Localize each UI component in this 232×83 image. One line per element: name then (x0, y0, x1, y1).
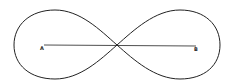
lemniscate-curve (14, 10, 220, 79)
label-b: B (194, 47, 198, 52)
segment-a-b (44, 45, 196, 46)
label-a: A (40, 46, 44, 51)
lemniscate-diagram (0, 0, 232, 83)
